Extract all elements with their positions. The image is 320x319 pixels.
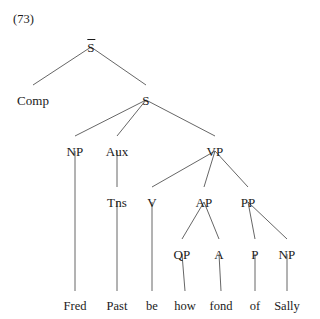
tree-terminal-w-fred: Fred xyxy=(64,300,87,313)
tree-node-vp: VP xyxy=(207,145,224,158)
tree-edge-sbar-to-comp xyxy=(33,47,91,85)
tree-node-label: NP xyxy=(279,247,296,262)
syntax-tree-figure: (73) SCompSNPAuxVPTnsVAPPPQPAPNPFredPast… xyxy=(0,0,320,319)
tree-node-label: V xyxy=(147,195,157,210)
tree-node-label: QP xyxy=(174,247,191,262)
tree-node-sbar: S xyxy=(87,41,94,54)
tree-node-label: NP xyxy=(67,144,84,159)
tree-edge-s-to-vp xyxy=(146,100,215,136)
tree-node-p: P xyxy=(251,248,258,261)
tree-node-s: S xyxy=(142,94,149,107)
tree-node-label: Aux xyxy=(106,144,129,159)
tree-node-label: P xyxy=(251,247,258,262)
tree-node-label: Comp xyxy=(17,93,49,108)
tree-branch-lines xyxy=(0,0,320,319)
tree-node-comp: Comp xyxy=(17,94,49,107)
tree-node-label: Tns xyxy=(107,195,127,210)
tree-node-label: S xyxy=(87,41,94,54)
tree-node-tns: Tns xyxy=(107,196,127,209)
tree-node-label: AP xyxy=(196,195,213,210)
tree-terminal-w-how: how xyxy=(174,300,196,313)
tree-terminal-w-past: Past xyxy=(107,300,128,313)
tree-node-ap: AP xyxy=(196,196,213,209)
tree-edge-sbar-to-s xyxy=(91,47,146,85)
tree-node-aux: Aux xyxy=(106,145,129,158)
tree-node-a: A xyxy=(214,248,224,261)
tree-terminal-w-fond: fond xyxy=(210,300,233,313)
tree-node-np2: NP xyxy=(279,248,296,261)
tree-terminal-w-of: of xyxy=(250,300,260,313)
tree-node-pp: PP xyxy=(241,196,256,209)
tree-node-label: PP xyxy=(241,195,256,210)
tree-terminal-w-be: be xyxy=(146,300,158,313)
tree-node-v: V xyxy=(147,196,157,209)
tree-node-label: VP xyxy=(207,144,224,159)
tree-node-label: S xyxy=(142,93,149,108)
tree-node-qp: QP xyxy=(174,248,191,261)
tree-node-label: A xyxy=(214,247,224,262)
tree-node-np1: NP xyxy=(67,145,84,158)
tree-edge-s-to-np1 xyxy=(75,100,146,136)
tree-terminal-w-sally: Sally xyxy=(274,300,300,313)
